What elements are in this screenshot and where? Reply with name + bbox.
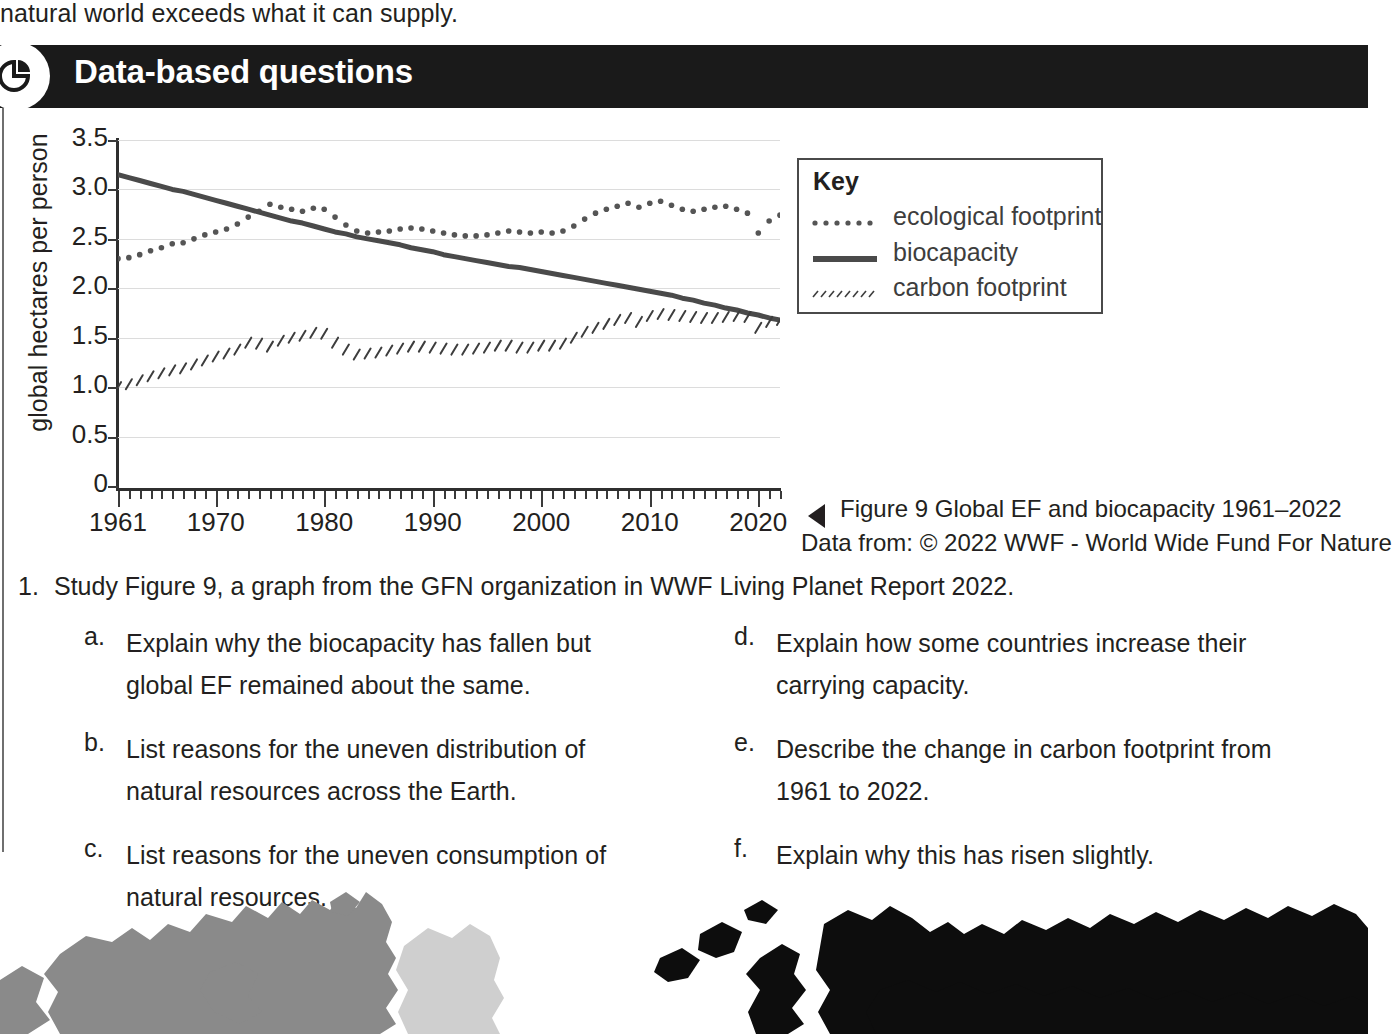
legend-label: ecological footprint [893, 202, 1101, 231]
left-triangle-icon [808, 504, 825, 528]
x-tick-minor [313, 491, 315, 499]
hatched-line-swatch [811, 287, 883, 301]
y-tick-label: 0.5 [38, 419, 108, 450]
caption-title: Figure 9 Global EF and biocapacity 1961–… [840, 495, 1342, 523]
y-tick-mark [108, 338, 118, 340]
world-map-image [0, 862, 1368, 1034]
sub-question-label: b. [84, 728, 105, 757]
x-tick-minor [661, 491, 663, 499]
x-tick-minor [454, 491, 456, 499]
y-tick-mark [108, 486, 118, 488]
y-tick-mark [108, 437, 118, 439]
x-tick-minor [357, 491, 359, 499]
x-tick-minor [368, 491, 370, 499]
y-tick-label: 1.5 [38, 320, 108, 351]
y-tick-label: 1.0 [38, 369, 108, 400]
x-tick-minor [509, 491, 511, 499]
x-tick-minor [498, 491, 500, 499]
x-tick-minor [346, 491, 348, 499]
x-tick-minor [237, 491, 239, 499]
legend-title: Key [813, 167, 859, 196]
sub-question-text: Explain how some countries increase thei… [776, 622, 1334, 706]
y-tick-label: 3.5 [38, 122, 108, 153]
sub-question-d: d.Explain how some countries increase th… [734, 622, 1334, 706]
x-tick-major [541, 491, 543, 507]
x-tick-minor [444, 491, 446, 499]
y-tick-label: 2.0 [38, 270, 108, 301]
legend-label: carbon footprint [893, 273, 1067, 302]
x-tick-minor [769, 491, 771, 499]
x-tick-minor [140, 491, 142, 499]
x-tick-major [324, 491, 326, 507]
sub-question-label: f. [734, 834, 748, 863]
sub-question-text: Describe the change in carbon footprint … [776, 728, 1334, 812]
x-tick-minor [389, 491, 391, 499]
x-tick-minor [302, 491, 304, 499]
x-tick-minor [151, 491, 153, 499]
sub-question-label: d. [734, 622, 755, 651]
series-biocapacity [118, 175, 780, 320]
x-tick-minor [563, 491, 565, 499]
x-tick-label: 1961 [89, 507, 147, 538]
x-tick-minor [704, 491, 706, 499]
x-tick-minor [292, 491, 294, 499]
legend-label: biocapacity [893, 238, 1018, 267]
x-tick-label: 2000 [512, 507, 570, 538]
sub-question-text: List reasons for the uneven distribution… [126, 728, 644, 812]
x-tick-minor [682, 491, 684, 499]
sub-question-b: b.List reasons for the uneven distributi… [84, 728, 644, 812]
y-axis-tick-labels: 00.51.01.52.02.53.03.5 [30, 118, 108, 498]
x-tick-minor [671, 491, 673, 499]
x-tick-minor [227, 491, 229, 499]
figure-9-chart: global hectares per person 00.51.01.52.0… [0, 118, 820, 558]
data-based-questions-banner: Data-based questions [0, 45, 1368, 108]
question-number: 1. [18, 572, 39, 601]
intro-paragraph: natural world exceeds what it can supply… [0, 0, 1360, 30]
x-tick-minor [465, 491, 467, 499]
question-column-right: d.Explain how some countries increase th… [734, 622, 1334, 898]
chart-legend: Key ecological footprint biocapacity car… [797, 158, 1103, 314]
series-carbon-footprint [118, 309, 780, 392]
x-tick-minor [411, 491, 413, 499]
dotted-line-swatch [811, 216, 883, 230]
x-tick-major [433, 491, 435, 507]
x-tick-minor [281, 491, 283, 499]
x-tick-minor [747, 491, 749, 499]
sub-question-e: e.Describe the change in carbon footprin… [734, 728, 1334, 812]
x-tick-minor [585, 491, 587, 499]
x-tick-minor [161, 491, 163, 499]
x-tick-minor [259, 491, 261, 499]
x-tick-label: 1980 [295, 507, 353, 538]
sub-question-label: e. [734, 728, 755, 757]
x-tick-minor [715, 491, 717, 499]
x-tick-minor [628, 491, 630, 499]
y-tick-mark [108, 239, 118, 241]
x-tick-minor [639, 491, 641, 499]
sub-question-text: Explain why the biocapacity has fallen b… [126, 622, 644, 706]
x-tick-minor [194, 491, 196, 499]
x-tick-minor [487, 491, 489, 499]
sub-question-label: c. [84, 834, 103, 863]
y-tick-label: 0 [38, 468, 108, 499]
x-tick-minor [422, 491, 424, 499]
x-tick-label: 1990 [404, 507, 462, 538]
x-tick-major [758, 491, 760, 507]
y-tick-mark [108, 387, 118, 389]
sub-question-a: a.Explain why the biocapacity has fallen… [84, 622, 644, 706]
x-tick-minor [378, 491, 380, 499]
x-tick-label: 2010 [621, 507, 679, 538]
x-tick-major [118, 491, 120, 507]
x-tick-label: 1970 [187, 507, 245, 538]
x-tick-minor [172, 491, 174, 499]
solid-line-swatch [811, 252, 883, 266]
x-tick-minor [596, 491, 598, 499]
banner-title: Data-based questions [74, 53, 413, 91]
y-tick-label: 3.0 [38, 171, 108, 202]
x-tick-minor [520, 491, 522, 499]
question-stem: Study Figure 9, a graph from the GFN org… [54, 572, 1014, 601]
x-tick-minor [693, 491, 695, 499]
y-tick-label: 2.5 [38, 221, 108, 252]
x-tick-minor [737, 491, 739, 499]
x-tick-minor [530, 491, 532, 499]
x-axis-ticks [118, 491, 780, 507]
